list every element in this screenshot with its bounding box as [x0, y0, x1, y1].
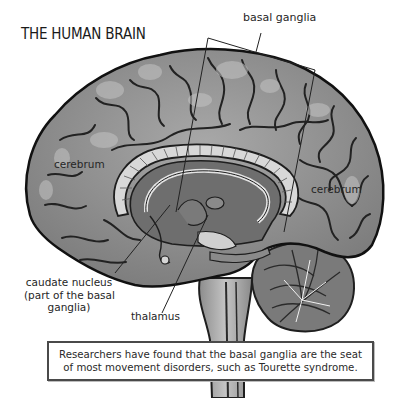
label-caudate-nucleus: caudate nucleus (part of the basal gangl… [24, 276, 114, 314]
basal-ganglia-leader [256, 33, 261, 52]
label-basal-ganglia: basal ganglia [243, 12, 316, 25]
brain-illustration [0, 0, 410, 398]
thalamus-shape [206, 197, 224, 209]
caudate-line-2: (part of the basal [24, 289, 114, 302]
label-cerebrum-left: cerebrum [54, 158, 105, 171]
caption-line-2: of most movement disorders, such as Tour… [59, 361, 362, 374]
caudate-line-3: ganglia) [24, 301, 114, 314]
caption-line-1: Researchers have found that the basal ga… [59, 348, 362, 361]
label-cerebrum-right: cerebrum [311, 183, 362, 196]
label-thalamus: thalamus [131, 310, 180, 323]
caudate-line-1: caudate nucleus [24, 276, 114, 289]
caption-box: Researchers have found that the basal ga… [47, 341, 374, 381]
